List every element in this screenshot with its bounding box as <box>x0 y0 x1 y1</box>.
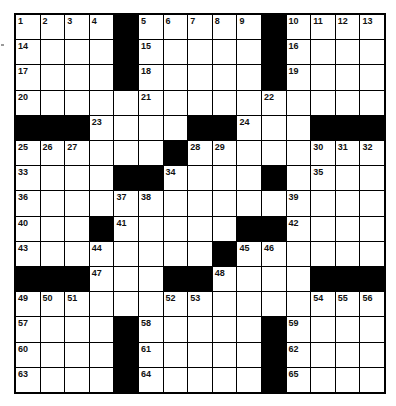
grid-cell[interactable] <box>360 91 384 115</box>
grid-cell[interactable]: 29 <box>213 141 237 165</box>
grid-cell[interactable] <box>213 191 237 215</box>
grid-cell[interactable] <box>336 65 360 89</box>
grid-cell[interactable]: 26 <box>41 141 65 165</box>
grid-cell[interactable] <box>311 343 335 367</box>
grid-cell[interactable] <box>262 141 286 165</box>
grid-cell[interactable] <box>336 191 360 215</box>
grid-cell[interactable] <box>164 65 188 89</box>
grid-cell[interactable]: 54 <box>311 292 335 316</box>
grid-cell[interactable] <box>188 191 212 215</box>
grid-cell[interactable] <box>139 267 163 291</box>
grid-cell[interactable] <box>164 368 188 392</box>
grid-cell[interactable] <box>164 217 188 241</box>
grid-cell[interactable]: 49 <box>16 292 40 316</box>
grid-cell[interactable] <box>65 317 89 341</box>
grid-cell[interactable] <box>311 368 335 392</box>
grid-cell[interactable] <box>311 317 335 341</box>
grid-cell[interactable]: 16 <box>287 40 311 64</box>
grid-cell[interactable]: 35 <box>311 166 335 190</box>
grid-cell[interactable]: 21 <box>139 91 163 115</box>
grid-cell[interactable] <box>65 166 89 190</box>
grid-cell[interactable]: 28 <box>188 141 212 165</box>
grid-cell[interactable] <box>336 242 360 266</box>
grid-cell[interactable] <box>114 116 138 140</box>
grid-cell[interactable]: 39 <box>287 191 311 215</box>
grid-cell[interactable] <box>237 317 261 341</box>
grid-cell[interactable]: 45 <box>237 242 261 266</box>
grid-cell[interactable] <box>41 217 65 241</box>
grid-cell[interactable] <box>262 116 286 140</box>
grid-cell[interactable]: 6 <box>164 15 188 39</box>
grid-cell[interactable] <box>311 40 335 64</box>
grid-cell[interactable] <box>139 242 163 266</box>
grid-cell[interactable] <box>262 267 286 291</box>
grid-cell[interactable]: 53 <box>188 292 212 316</box>
grid-cell[interactable] <box>311 91 335 115</box>
grid-cell[interactable]: 59 <box>287 317 311 341</box>
grid-cell[interactable]: 17 <box>16 65 40 89</box>
grid-cell[interactable]: 10 <box>287 15 311 39</box>
grid-cell[interactable] <box>139 141 163 165</box>
grid-cell[interactable] <box>360 191 384 215</box>
grid-cell[interactable] <box>311 191 335 215</box>
grid-cell[interactable] <box>336 343 360 367</box>
grid-cell[interactable]: 30 <box>311 141 335 165</box>
grid-cell[interactable] <box>65 368 89 392</box>
grid-cell[interactable]: 64 <box>139 368 163 392</box>
grid-cell[interactable] <box>114 91 138 115</box>
grid-cell[interactable]: 5 <box>139 15 163 39</box>
grid-cell[interactable]: 2 <box>41 15 65 39</box>
grid-cell[interactable] <box>287 91 311 115</box>
grid-cell[interactable] <box>360 217 384 241</box>
grid-cell[interactable] <box>41 242 65 266</box>
grid-cell[interactable] <box>213 65 237 89</box>
grid-cell[interactable] <box>90 191 114 215</box>
grid-cell[interactable] <box>114 141 138 165</box>
grid-cell[interactable]: 18 <box>139 65 163 89</box>
grid-cell[interactable] <box>65 65 89 89</box>
grid-cell[interactable] <box>360 40 384 64</box>
grid-cell[interactable] <box>360 166 384 190</box>
grid-cell[interactable] <box>164 40 188 64</box>
grid-cell[interactable] <box>336 368 360 392</box>
grid-cell[interactable] <box>213 217 237 241</box>
grid-cell[interactable]: 13 <box>360 15 384 39</box>
grid-cell[interactable] <box>164 116 188 140</box>
grid-cell[interactable] <box>311 242 335 266</box>
grid-cell[interactable]: 23 <box>90 116 114 140</box>
grid-cell[interactable]: 25 <box>16 141 40 165</box>
grid-cell[interactable] <box>287 166 311 190</box>
grid-cell[interactable] <box>41 40 65 64</box>
grid-cell[interactable] <box>237 166 261 190</box>
grid-cell[interactable]: 36 <box>16 191 40 215</box>
grid-cell[interactable]: 4 <box>90 15 114 39</box>
grid-cell[interactable] <box>114 267 138 291</box>
grid-cell[interactable]: 8 <box>213 15 237 39</box>
grid-cell[interactable]: 43 <box>16 242 40 266</box>
grid-cell[interactable]: 47 <box>90 267 114 291</box>
grid-cell[interactable] <box>41 343 65 367</box>
grid-cell[interactable] <box>90 292 114 316</box>
grid-cell[interactable]: 46 <box>262 242 286 266</box>
grid-cell[interactable]: 40 <box>16 217 40 241</box>
grid-cell[interactable] <box>188 368 212 392</box>
grid-cell[interactable] <box>237 141 261 165</box>
grid-cell[interactable]: 22 <box>262 91 286 115</box>
grid-cell[interactable]: 56 <box>360 292 384 316</box>
grid-cell[interactable] <box>90 166 114 190</box>
grid-cell[interactable] <box>336 40 360 64</box>
grid-cell[interactable] <box>188 343 212 367</box>
grid-cell[interactable] <box>188 65 212 89</box>
grid-cell[interactable] <box>41 65 65 89</box>
grid-cell[interactable] <box>213 343 237 367</box>
grid-cell[interactable] <box>65 40 89 64</box>
grid-cell[interactable] <box>65 242 89 266</box>
grid-cell[interactable]: 57 <box>16 317 40 341</box>
grid-cell[interactable] <box>188 242 212 266</box>
grid-cell[interactable] <box>139 217 163 241</box>
grid-cell[interactable] <box>164 191 188 215</box>
grid-cell[interactable]: 34 <box>164 166 188 190</box>
grid-cell[interactable] <box>164 343 188 367</box>
grid-cell[interactable] <box>188 166 212 190</box>
grid-cell[interactable]: 65 <box>287 368 311 392</box>
